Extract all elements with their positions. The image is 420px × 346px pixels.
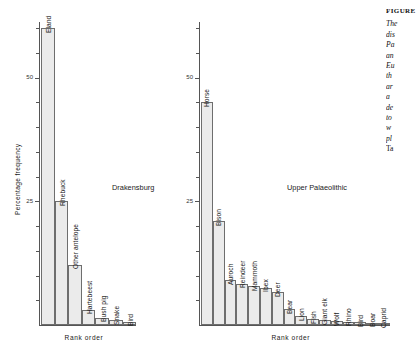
bar [213, 221, 225, 325]
bar-label: Ibex [262, 280, 269, 293]
bar-label: Horse [203, 89, 210, 107]
y-axis-minor-tick [196, 276, 199, 277]
y-axis-line [199, 22, 200, 325]
caption-line: ar [386, 82, 420, 92]
bar-label: Giant elk [321, 298, 328, 325]
x-axis-title: Rank order [271, 334, 310, 341]
caption-line: Pa [386, 40, 420, 50]
caption-heading: FIGURE [386, 6, 420, 16]
bar [260, 288, 272, 325]
y-axis-tick-label: 25 [180, 198, 193, 204]
caption-line: th [386, 71, 420, 81]
bar-label: Fish [310, 311, 317, 324]
y-axis-minor-tick [196, 28, 199, 29]
bar-label: Mammoth [251, 261, 258, 291]
bar-label: Wolf [333, 312, 340, 325]
y-axis-minor-tick [196, 53, 199, 54]
bar-label: Deer [274, 282, 281, 297]
bar [272, 292, 284, 325]
bar-label: Caprid [380, 308, 387, 328]
y-axis-major-tick [195, 201, 199, 202]
figure-caption: FIGURE ThedisPaanEutharadetowpl Ta [386, 6, 420, 155]
y-axis-minor-tick [196, 102, 199, 103]
y-axis-minor-tick [196, 300, 199, 301]
caption-line: The [386, 19, 420, 29]
y-axis-minor-tick [196, 251, 199, 252]
bar-label: Auroch [227, 263, 234, 285]
bar-label: Bear [286, 299, 293, 313]
panel-title: Upper Palaeolithic [287, 183, 347, 192]
bar-label: Bison [215, 209, 222, 226]
y-axis-minor-tick [196, 226, 199, 227]
bar-label: Boar [369, 313, 376, 327]
caption-line: de [386, 103, 420, 113]
figure-panel: Percentage frequency 2550ElandRhebuckOth… [0, 0, 420, 346]
caption-body: ThedisPaanEutharadetowpl [386, 19, 420, 144]
caption-line: dis [386, 30, 420, 40]
y-axis-minor-tick [196, 177, 199, 178]
bar-label: Bird [357, 314, 364, 326]
caption-line: an [386, 51, 420, 61]
bar [248, 286, 260, 325]
bar [225, 280, 237, 325]
bar-label: Reindeer [239, 261, 246, 289]
bar [236, 284, 248, 325]
caption-line: a [386, 92, 420, 102]
y-axis-major-tick [195, 78, 199, 79]
caption-last-line: Ta [386, 144, 420, 154]
y-axis-minor-tick [196, 152, 199, 153]
chart-upper-palaeolithic: 2550HorseBisonAurochReindeerMammothIbexD… [0, 0, 420, 346]
y-axis-tick-label: 50 [180, 74, 193, 80]
bar-label: Lion [298, 308, 305, 321]
caption-line: Eu [386, 61, 420, 71]
bar [201, 102, 213, 325]
caption-line: to [386, 113, 420, 123]
caption-line: pl [386, 134, 420, 144]
caption-line: w [386, 123, 420, 133]
y-axis-minor-tick [196, 127, 199, 128]
bar-label: Rhino [345, 308, 352, 326]
